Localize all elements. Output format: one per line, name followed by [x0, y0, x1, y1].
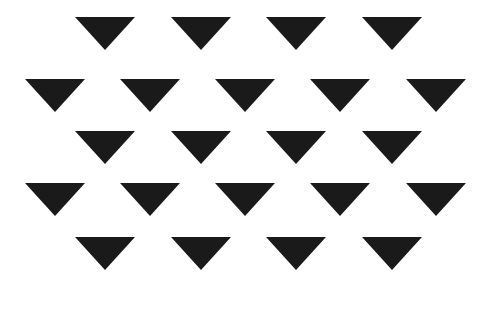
down-triangle-icon: [362, 237, 422, 270]
down-triangle-icon: [362, 131, 422, 164]
down-triangle-icon: [171, 17, 231, 50]
down-triangle-icon: [406, 79, 466, 112]
down-triangle-icon: [25, 183, 85, 216]
down-triangle-icon: [266, 131, 326, 164]
down-triangle-icon: [120, 183, 180, 216]
down-triangle-icon: [266, 17, 326, 50]
down-triangle-icon: [266, 237, 326, 270]
down-triangle-icon: [75, 237, 135, 270]
down-triangle-icon: [171, 131, 231, 164]
down-triangle-icon: [25, 79, 85, 112]
down-triangle-icon: [362, 17, 422, 50]
down-triangle-icon: [120, 79, 180, 112]
down-triangle-icon: [75, 17, 135, 50]
down-triangle-icon: [310, 79, 370, 112]
down-triangle-icon: [75, 131, 135, 164]
down-triangle-icon: [406, 183, 466, 216]
down-triangle-icon: [310, 183, 370, 216]
down-triangle-icon: [215, 79, 275, 112]
triangle-pattern-canvas: [0, 0, 485, 311]
down-triangle-icon: [215, 183, 275, 216]
down-triangle-icon: [171, 237, 231, 270]
